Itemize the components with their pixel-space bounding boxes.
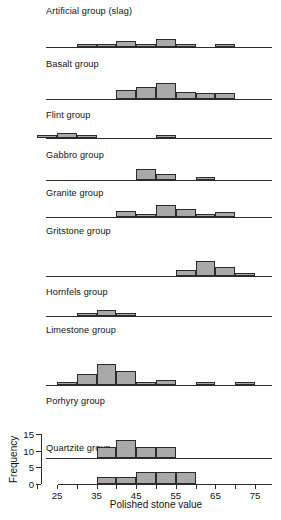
panel-baseline	[46, 99, 272, 100]
histogram-bar	[116, 440, 136, 458]
histogram-bar	[235, 273, 255, 276]
x-tick-40	[116, 485, 117, 489]
panel-title-porphyry: Porhyry group	[46, 396, 105, 407]
histogram-bar	[97, 44, 117, 47]
histogram-bar	[77, 135, 97, 138]
multi-panel-histogram-figure: Artificial group (slag) Basalt group Fli…	[0, 0, 281, 520]
x-tick-60	[196, 485, 197, 489]
y-tick-label-10: 10	[10, 446, 34, 457]
histogram-bar	[156, 174, 176, 180]
histogram-bar	[116, 211, 136, 217]
y-tick-0	[36, 484, 41, 485]
y-tick-label-15: 15	[10, 429, 34, 440]
panel-baseline	[46, 138, 272, 139]
histogram-bar	[116, 90, 136, 99]
y-axis-line	[41, 434, 42, 484]
histogram-bar	[77, 313, 97, 316]
panel-title-limestone: Limestone group	[46, 325, 116, 336]
x-tick-75	[255, 485, 256, 489]
panel-title-granite: Granite group	[46, 188, 103, 199]
histogram-bar	[136, 472, 156, 484]
histogram-bar	[176, 44, 196, 47]
histogram-bar	[97, 447, 117, 458]
panel-baseline	[58, 484, 272, 485]
histogram-bar	[215, 44, 235, 47]
x-tick-70	[235, 485, 236, 489]
histogram-bar	[156, 380, 176, 385]
histogram-bar	[176, 472, 196, 484]
histogram-bar	[156, 472, 176, 484]
histogram-bar	[136, 87, 156, 99]
panel-title-gritstone: Gritstone group	[46, 226, 111, 237]
x-tick-label-45: 45	[124, 490, 148, 501]
histogram-bar	[156, 447, 176, 458]
histogram-bar	[156, 39, 176, 47]
panel-title-gabbro: Gabbro group	[46, 150, 104, 161]
x-tick-30	[77, 485, 78, 489]
y-tick-5	[36, 467, 41, 468]
panel-baseline	[46, 47, 272, 48]
histogram-bar	[57, 133, 77, 138]
x-tick-25	[57, 485, 58, 489]
histogram-bar	[176, 270, 196, 276]
x-tick-label-75: 75	[243, 490, 267, 501]
x-tick-label-55: 55	[164, 490, 188, 501]
histogram-bar	[215, 267, 235, 276]
histogram-bar	[176, 209, 196, 217]
x-tick-55	[176, 485, 177, 489]
histogram-bar	[116, 477, 136, 484]
y-tick-15	[36, 434, 41, 435]
histogram-bar	[215, 93, 235, 99]
histogram-bar	[215, 212, 235, 217]
histogram-bar	[116, 313, 136, 316]
panel-title-hornfels: Hornfels group	[46, 287, 108, 298]
x-tick-35	[97, 485, 98, 489]
histogram-bar	[136, 382, 156, 385]
x-axis-label: Polished stone value	[56, 499, 256, 510]
panel-title-flint: Flint group	[46, 110, 91, 121]
panel-baseline	[46, 217, 272, 218]
x-tick-label-65: 65	[203, 490, 227, 501]
histogram-bar	[116, 41, 136, 47]
histogram-bar	[97, 310, 117, 316]
x-tick-20	[37, 485, 38, 489]
x-tick-label-25: 25	[45, 490, 69, 501]
histogram-bar	[196, 93, 216, 99]
histogram-bar	[136, 447, 156, 458]
y-axis-label: Frequency	[8, 436, 19, 483]
histogram-bar	[235, 382, 255, 385]
x-tick-50	[156, 485, 157, 489]
histogram-bar	[196, 214, 216, 217]
panel-title-basalt: Basalt group	[46, 59, 99, 70]
panel-baseline	[46, 458, 272, 459]
y-tick-10	[36, 451, 41, 452]
panel-baseline	[46, 276, 272, 277]
x-tick-45	[136, 485, 137, 489]
x-tick-65	[215, 485, 216, 489]
histogram-bar	[156, 205, 176, 217]
y-tick-label-0: 0	[10, 479, 34, 490]
panel-baseline	[46, 385, 272, 386]
histogram-bar	[196, 261, 216, 277]
histogram-bar	[116, 371, 136, 385]
histogram-bar	[196, 382, 216, 385]
panel-baseline	[46, 316, 272, 317]
histogram-bar	[156, 135, 176, 138]
histogram-bar	[156, 83, 176, 99]
histogram-bar	[136, 169, 156, 180]
y-tick-label-5: 5	[10, 462, 34, 473]
histogram-bar	[37, 135, 57, 138]
panel-title-artificial: Artificial group (slag)	[46, 6, 132, 17]
axes: 15 10 5 0 Frequency 253545556575 Polishe…	[0, 0, 281, 520]
histogram-bar	[77, 374, 97, 385]
histogram-bar	[77, 44, 97, 47]
histogram-bar	[196, 177, 216, 180]
histogram-bar	[57, 382, 77, 385]
histogram-bar	[136, 44, 156, 47]
histogram-bar	[136, 214, 156, 217]
histogram-bar	[176, 92, 196, 99]
histogram-bar	[97, 364, 117, 385]
histogram-bar	[97, 477, 117, 484]
panel-baseline	[46, 180, 272, 181]
x-tick-label-35: 35	[85, 490, 109, 501]
